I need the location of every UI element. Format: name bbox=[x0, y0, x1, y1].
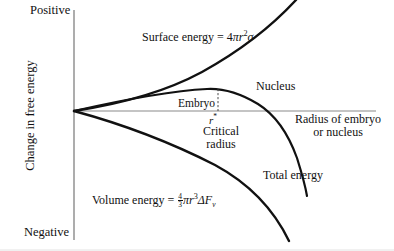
volume-energy-subscript: v bbox=[212, 200, 215, 209]
nucleus-label: Nucleus bbox=[256, 80, 295, 93]
surface-energy-text: Surface energy = 4 bbox=[142, 30, 233, 44]
x-axis-title-line2: or nucleus bbox=[313, 125, 363, 139]
volume-energy-curve bbox=[74, 111, 289, 241]
total-energy-annotation: Total energy bbox=[263, 169, 323, 182]
volume-energy-fraction: 43 bbox=[178, 193, 183, 209]
y-axis-positive-label: Positive bbox=[30, 4, 70, 18]
surface-energy-curve bbox=[74, 0, 296, 111]
critical-radius-line2: radius bbox=[206, 137, 235, 151]
y-axis-title: Change in free energy bbox=[23, 16, 38, 216]
x-axis-title-line1: Radius of embryo bbox=[295, 112, 381, 126]
volume-energy-text: Volume energy = bbox=[92, 193, 177, 207]
volume-energy-denominator: 3 bbox=[178, 201, 183, 209]
r-star-asterisk: * bbox=[213, 112, 217, 121]
x-axis-title: Radius of embryoor nucleus bbox=[288, 113, 388, 139]
volume-energy-annotation: Volume energy = 43πr3ΔFv bbox=[92, 193, 216, 209]
volume-energy-delta-f: ΔF bbox=[198, 193, 212, 207]
embryo-label: Embryo bbox=[178, 97, 215, 109]
critical-radius-label: Criticalradius bbox=[186, 125, 256, 151]
critical-radius-line1: Critical bbox=[203, 124, 239, 138]
surface-energy-annotation: Surface energy = 4πr2σ bbox=[142, 30, 254, 44]
surface-energy-sigma: σ bbox=[248, 30, 254, 44]
nucleation-free-energy-figure: Change in free energy Positive Negative … bbox=[0, 0, 394, 251]
y-axis-negative-label: Negative bbox=[24, 226, 69, 240]
